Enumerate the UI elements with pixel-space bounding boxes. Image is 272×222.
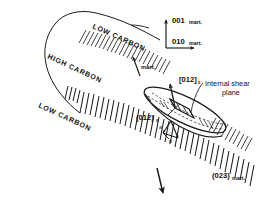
martensite-shear-figure: LOW CARBON HIGH CARBON LOW CARBON 001 ma… <box>0 0 272 222</box>
figure-canvas: LOW CARBON HIGH CARBON LOW CARBON 001 ma… <box>0 0 272 222</box>
habit-arrow-subscript: mart. <box>141 64 156 70</box>
vector-a-label: a <box>159 124 162 130</box>
internal-shear-plane-line1: Internal shear <box>205 79 250 88</box>
shear-plane-trace-label: (012) ε <box>136 113 159 123</box>
axis-horizontal-subscript: mart. <box>189 40 202 46</box>
axis-label-horizontal: 010 mart. <box>172 37 202 46</box>
axis-vertical-index: 001 <box>172 16 185 25</box>
band-label-high-carbon: HIGH CARBON <box>46 53 103 85</box>
bottom-plane-subscript: mart. <box>232 175 245 181</box>
axis-horizontal-index: 010 <box>172 37 185 46</box>
axis-label-vertical: 001 mart. <box>172 16 202 25</box>
upper-hatch-band-continuation <box>209 118 252 151</box>
vector-b-label: b <box>169 138 172 144</box>
shear-plane-trace-index: (012) <box>136 113 154 122</box>
shear-direction-subscript: ε <box>198 79 201 85</box>
macroscopic-shear-arrow <box>157 168 163 193</box>
bottom-plane-label: (023) mart. <box>212 171 245 181</box>
axis-vertical-subscript: mart. <box>189 19 202 25</box>
habit-direction-arrow <box>133 57 140 76</box>
band-label-low-carbon-lower: LOW CARBON <box>37 102 92 133</box>
martensite-plate <box>139 79 231 142</box>
internal-shear-plane-leader <box>191 83 203 112</box>
internal-shear-plane-line2: plane <box>222 88 240 97</box>
shear-direction-label: [012] ε <box>179 75 201 85</box>
shear-direction-index: [012] <box>179 75 197 84</box>
internal-shear-plane-label: Internal shear plane <box>205 79 250 97</box>
bottom-plane-index: (023) <box>212 171 230 180</box>
lower-hatch-band-tail <box>65 86 80 103</box>
